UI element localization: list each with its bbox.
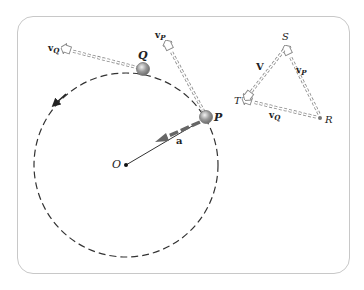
label-a: a xyxy=(176,135,183,146)
label-r: R xyxy=(324,114,333,125)
center-point xyxy=(124,163,128,167)
velocity-vector-q xyxy=(66,49,139,68)
direction-arrow-icon xyxy=(55,94,66,104)
ball-q xyxy=(137,63,150,76)
label-t: T xyxy=(234,95,242,106)
vertex-r-dot xyxy=(318,116,322,120)
diagram-svg: O P Q a vQ vP S R T V vP vQ xyxy=(0,0,364,290)
label-s: S xyxy=(282,31,289,42)
diagram-canvas: O P Q a vQ vP S R T V vP vQ xyxy=(0,0,364,290)
label-vq: vQ xyxy=(47,43,59,55)
triangle-edge-v xyxy=(248,50,284,96)
label-p: P xyxy=(213,111,223,124)
label-triangle-vq: vQ xyxy=(268,110,280,122)
label-vp: vP xyxy=(154,30,166,42)
label-triangle-vp: vP xyxy=(295,65,307,77)
ball-p xyxy=(200,111,213,124)
label-q: Q xyxy=(138,49,148,62)
label-o: O xyxy=(112,158,121,171)
label-v: V xyxy=(255,61,264,72)
triangle-edge-vq xyxy=(247,100,316,117)
triangle-edge-vp xyxy=(287,50,319,114)
velocity-vector-p xyxy=(168,45,204,112)
